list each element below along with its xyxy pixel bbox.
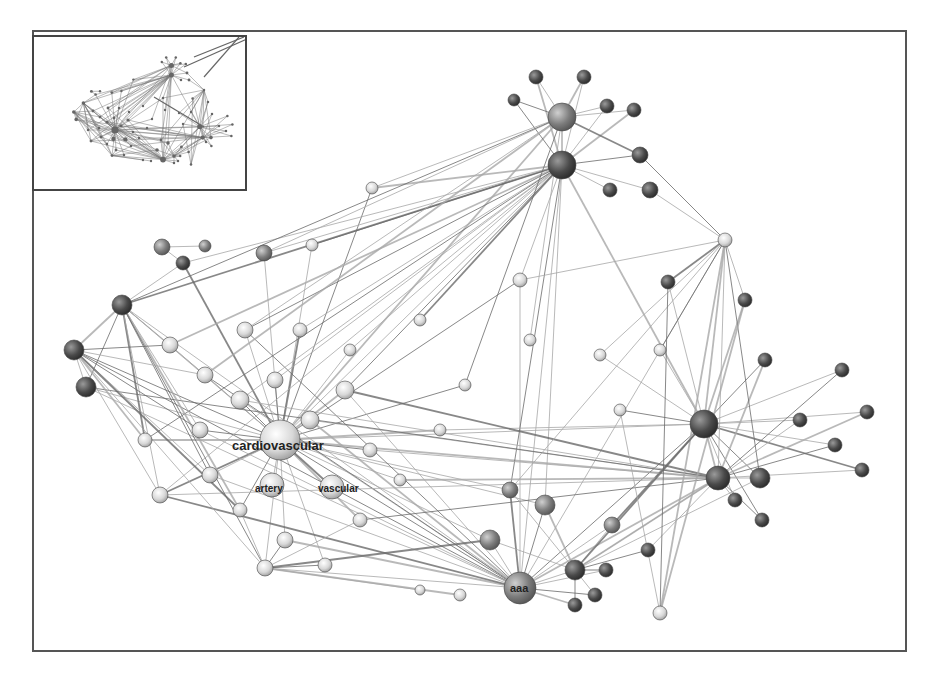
graph-edge <box>280 424 704 440</box>
graph-edge <box>200 430 520 588</box>
inset-node <box>118 107 121 110</box>
graph-node-n_c9 <box>237 322 253 338</box>
inset-edge <box>163 75 171 160</box>
graph-node-n_c5 <box>301 411 319 429</box>
inset-node <box>132 131 135 134</box>
graph-node-n_bottom_right <box>653 606 667 620</box>
inset-node <box>190 163 193 166</box>
inset-node <box>188 79 191 82</box>
inset-edge <box>74 103 84 112</box>
inset-node <box>138 137 140 139</box>
graph-node-n_c8 <box>162 337 178 353</box>
inset-edge <box>189 80 204 90</box>
graph-node-n_mid8 <box>588 588 602 602</box>
graph-node-n_mid10 <box>641 543 655 557</box>
graph-edge <box>74 345 170 350</box>
inset-node <box>205 141 208 144</box>
graph-node-n_c10 <box>293 323 307 337</box>
graph-node-n_top7 <box>627 103 641 117</box>
graph-node-n_lb3 <box>318 558 332 572</box>
graph-edge <box>668 240 725 282</box>
graph-edge <box>74 350 265 568</box>
inset-node <box>226 115 229 118</box>
graph-edge <box>520 478 718 588</box>
inset-node <box>87 129 90 132</box>
graph-node-n_mid2 <box>513 273 527 287</box>
graph-node-n_lb1 <box>152 487 168 503</box>
graph-edge <box>718 470 862 478</box>
graph-edge <box>648 478 718 550</box>
node-label: cardiovascular <box>232 438 324 453</box>
graph-node-n_mid7 <box>568 598 582 612</box>
inset-edge <box>204 37 239 77</box>
inset-node <box>172 154 176 158</box>
inset-node <box>94 93 97 96</box>
inset-node <box>182 123 184 125</box>
inset-node <box>99 90 101 92</box>
inset-node <box>151 118 153 120</box>
inset-node <box>178 112 180 114</box>
node-label: aaa <box>510 582 529 594</box>
inset-node <box>162 97 165 100</box>
inset-node <box>225 130 228 133</box>
inset-edge <box>83 103 163 160</box>
graph-node-n_c1 <box>231 391 249 409</box>
inset-node <box>90 90 93 93</box>
graph-node-n_c24 <box>414 314 426 326</box>
inset-node <box>115 149 118 152</box>
inset-node <box>190 111 192 113</box>
graph-node-n_c14 <box>353 513 367 527</box>
graph-node-n_left7 <box>256 245 272 261</box>
inset-node <box>175 56 178 59</box>
graph-node-n_right5 <box>860 405 874 419</box>
inset-node <box>218 125 221 128</box>
inset-node <box>142 105 144 107</box>
inset-node <box>164 109 166 111</box>
graph-node-n_mid6 <box>604 517 620 533</box>
graph-edge <box>530 117 562 340</box>
graph-edge <box>122 305 210 475</box>
inset-node <box>146 127 148 129</box>
graph-edge <box>718 370 842 478</box>
graph-node-n_c3 <box>197 367 213 383</box>
graph-node-n_c21 <box>614 404 626 416</box>
graph-node-n_c23 <box>654 344 666 356</box>
graph-node-n_right8 <box>793 413 807 427</box>
graph-edge <box>600 240 725 355</box>
graph-node-n_c17 <box>394 474 406 486</box>
inset-node <box>169 63 174 68</box>
graph-node-n_right12 <box>755 513 769 527</box>
graph-node-n_c13 <box>363 443 377 457</box>
graph-node-n_mid3 <box>480 530 500 550</box>
graph-edge <box>170 165 562 345</box>
inset-edge <box>204 90 208 102</box>
inset-node <box>111 126 118 133</box>
inset-node <box>155 148 159 152</box>
graph-node-n_c6 <box>138 433 152 447</box>
inset-node <box>106 143 109 146</box>
inset-edge <box>171 75 199 127</box>
graph-edge <box>183 263 280 440</box>
inset-node <box>105 120 108 123</box>
inset-node <box>169 72 174 77</box>
graph-node-n_top2 <box>548 151 576 179</box>
graph-node-n_mid5 <box>535 495 555 515</box>
graph-node-n_left3 <box>112 295 132 315</box>
graph-edge <box>718 445 835 478</box>
graph-edge <box>205 117 562 375</box>
inset-node <box>207 101 210 104</box>
graph-node-n_lb2 <box>257 560 273 576</box>
graph-node-n_top3 <box>529 70 543 84</box>
graph-node-n_right7 <box>828 438 842 452</box>
graph-node-n_c2 <box>336 381 354 399</box>
inset-node <box>142 159 144 161</box>
inset-node <box>191 97 194 100</box>
inset-node <box>107 107 110 110</box>
inset-node <box>111 154 114 157</box>
inset-node <box>74 118 78 122</box>
graph-node-n_top5 <box>508 94 520 106</box>
inset-node <box>90 140 93 143</box>
inset-node <box>186 72 189 75</box>
graph-node-n_top8 <box>632 147 648 163</box>
graph-node-n_top_hub <box>548 103 576 131</box>
